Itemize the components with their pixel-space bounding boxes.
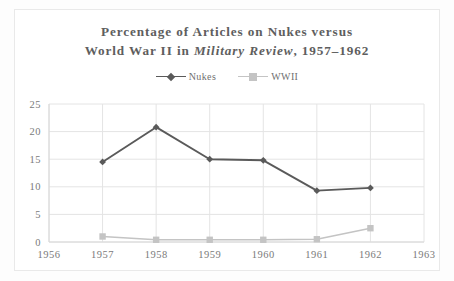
x-axis-tick-label: 1956 [38,249,61,260]
data-point-wwii [314,236,320,242]
data-point-wwii [99,233,105,239]
y-axis-tick-label: 5 [35,209,41,220]
data-point-wwii [207,237,213,243]
y-axis-tick-label: 25 [30,99,42,110]
y-axis-tick-label: 10 [30,181,42,192]
x-axis-tick-label: 1960 [252,249,275,260]
x-axis-tick-label: 1959 [198,249,221,260]
chart-figure: Percentage of Articles on Nukes versus W… [0,0,454,281]
x-axis-tick-label: 1957 [91,249,114,260]
data-point-wwii [153,237,159,243]
data-point-wwii [260,237,266,243]
y-axis-tick-label: 20 [30,126,42,137]
plot-background [49,104,424,242]
x-axis-tick-label: 1958 [145,249,168,260]
x-axis-tick-label: 1962 [359,249,382,260]
plot-area: 0510152025195619571958195919601961196219… [0,0,454,281]
x-axis-tick-label: 1961 [305,249,328,260]
data-point-wwii [367,225,373,231]
x-axis-tick-label: 1963 [413,249,436,260]
plot-svg: 0510152025195619571958195919601961196219… [0,0,454,281]
y-axis-tick-label: 15 [30,154,42,165]
y-axis-tick-label: 0 [35,237,41,248]
